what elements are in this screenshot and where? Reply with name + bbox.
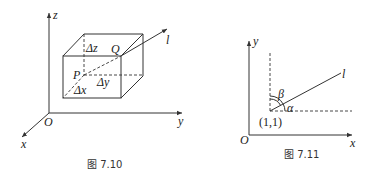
diagram-canvas: z y x O P Q l Δz Δy Δx 图 7.10 y x O (1,1… [0, 0, 370, 175]
point-label: (1,1) [259, 115, 282, 129]
delta-z-label: Δz [85, 41, 98, 55]
point-p-label: P [72, 68, 81, 82]
point-q-label: Q [111, 42, 120, 56]
line-l [121, 29, 167, 56]
angle-alpha-arc [283, 104, 285, 111]
box-front-face [63, 56, 121, 98]
box-top-face [63, 34, 143, 56]
pq-diagonal [84, 56, 121, 75]
x-axis-label: x [20, 137, 27, 151]
y-axis-label: y [252, 34, 259, 48]
x-axis-label: x [349, 136, 356, 150]
origin-label: O [240, 133, 249, 147]
z-axis-label: z [52, 8, 58, 22]
angle-beta-label: β [277, 87, 284, 101]
origin-label: O [44, 115, 53, 129]
line-l-label: l [166, 33, 170, 47]
box-right-face [121, 34, 143, 98]
figure-caption-7-11: 图 7.11 [284, 149, 319, 160]
angle-alpha-label: α [287, 101, 294, 115]
y-axis-label: y [177, 114, 184, 128]
line-l-label: l [342, 67, 346, 81]
delta-x-label: Δx [73, 83, 87, 97]
figure-7-10: z y x O P Q l Δz Δy Δx 图 7.10 [20, 8, 184, 170]
delta-y-label: Δy [96, 75, 110, 89]
figure-caption-7-10: 图 7.10 [87, 159, 122, 170]
figure-7-11: y x O (1,1) l α β 图 7.11 [240, 34, 356, 160]
